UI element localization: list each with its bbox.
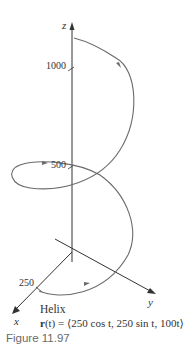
curve-direction-arrow-icon xyxy=(116,62,121,68)
x-axis-arrowhead-icon xyxy=(12,306,20,314)
helix-title: Helix xyxy=(40,304,66,316)
helix-curve xyxy=(12,38,134,295)
curve-direction-arrow-icon xyxy=(84,282,90,286)
z-tick-label-1000: 1000 xyxy=(46,61,66,71)
z-tick-label-500: 500 xyxy=(51,160,66,170)
x-tick-label-250: 250 xyxy=(19,278,34,288)
y-axis xyxy=(55,239,152,292)
helix-figure: z x y 1000 500 250 Helix r(t) = ⟨250 cos… xyxy=(0,0,193,352)
equation-lhs: (t) = xyxy=(45,317,67,329)
z-axis-arrowhead-icon xyxy=(70,22,75,30)
figure-caption: Figure 11.97 xyxy=(6,332,70,344)
x-axis-label: x xyxy=(14,316,19,327)
helix-plot xyxy=(0,0,193,352)
y-axis-label: y xyxy=(148,297,153,308)
z-axis-label: z xyxy=(62,20,66,31)
y-axis-arrowhead-icon xyxy=(147,288,156,294)
helix-equation: r(t) = ⟨250 cos t, 250 sin t, 100t⟩ xyxy=(40,318,184,329)
z-tick-1000 xyxy=(68,67,74,71)
equation-rhs: ⟨250 cos t, 250 sin t, 100t⟩ xyxy=(67,317,184,329)
